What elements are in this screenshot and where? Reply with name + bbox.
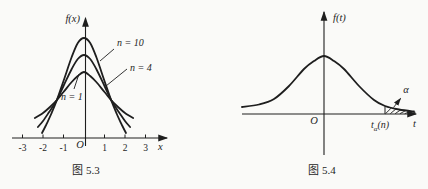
fig53-y-axis-label: f(x) [65, 13, 80, 25]
fig54-y-axis-label: f(t) [333, 12, 346, 24]
fig53-label-n1: n = 1 [61, 91, 83, 102]
fig54-quantile-label: tα(n) [371, 119, 390, 133]
fig53-curves [35, 38, 133, 133]
figure-5-4: f(t) t O α tα(n) 图 5.4 [242, 12, 417, 176]
fig53-caption: 图 5.3 [72, 164, 100, 176]
hatch-line [390, 109, 396, 114]
x-tick-label: 3 [143, 143, 148, 153]
fig54-alpha-arrow [394, 99, 401, 108]
fig54-t-axis-label: t [413, 118, 417, 129]
density-curve-n=4 [38, 55, 130, 127]
density-curve-n=10 [42, 38, 126, 133]
textbook-figures-page: -3-2-1123 f(x) x O n = 10 n = 4 n = 1 图 … [0, 0, 428, 189]
fig53-leader-n4 [106, 69, 127, 86]
fig53-leader-n10 [100, 49, 114, 61]
fig54-origin-label: O [310, 115, 318, 126]
x-tick-label: -3 [19, 143, 27, 153]
figures-canvas: -3-2-1123 f(x) x O n = 10 n = 4 n = 1 图 … [0, 0, 428, 189]
fig54-density-curve [242, 56, 414, 112]
fig54-alpha-label: α [403, 84, 409, 95]
x-tick-label: 2 [123, 143, 128, 153]
fig53-origin-label: O [76, 139, 84, 150]
x-tick-label: -2 [39, 143, 47, 153]
fig54-caption: 图 5.4 [308, 164, 336, 176]
x-tick-label: -1 [60, 143, 68, 153]
fig53-label-n4: n = 4 [130, 62, 152, 73]
fig53-x-axis-label: x [157, 141, 163, 152]
hatch-line [386, 108, 392, 114]
x-tick-label: 1 [102, 143, 107, 153]
figure-5-3: -3-2-1123 f(x) x O n = 10 n = 4 n = 1 图 … [12, 13, 167, 176]
fig53-label-n10: n = 10 [117, 37, 144, 48]
